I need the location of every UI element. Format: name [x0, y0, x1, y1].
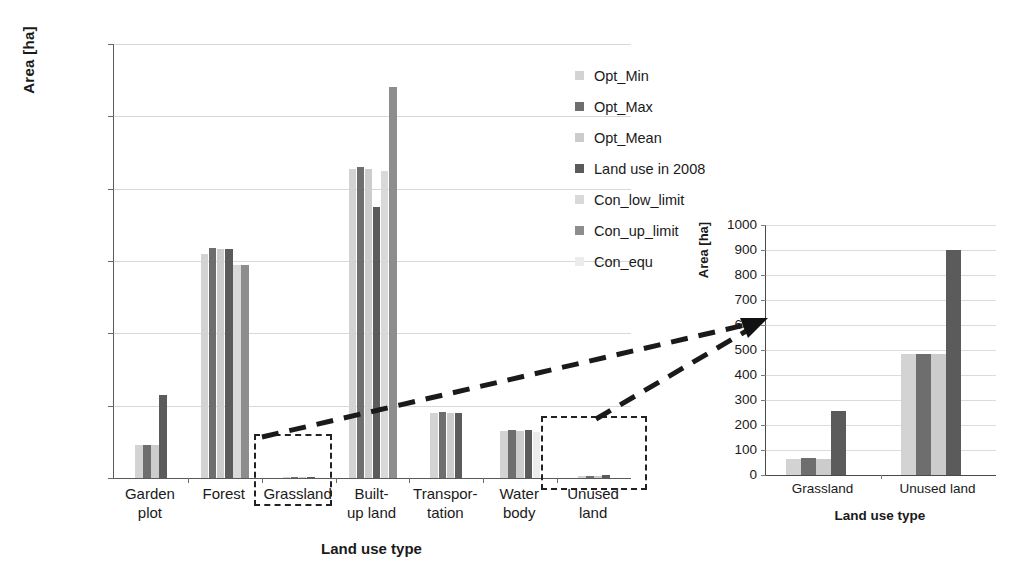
bar [455, 413, 463, 478]
bar [931, 354, 946, 475]
y-axis-tick-mark [108, 333, 114, 334]
y-axis-tick-mark [108, 116, 114, 117]
y-axis-tick-label: 500 [697, 344, 757, 356]
bar [447, 413, 455, 478]
bar [357, 167, 365, 478]
bar [365, 169, 373, 478]
x-axis-category-line: land [544, 503, 642, 522]
legend-item: Opt_Min [575, 60, 750, 91]
unused-land-callout-box [541, 416, 647, 490]
bar [525, 430, 533, 478]
y-axis-tick-mark [761, 250, 766, 251]
y-axis-tick-mark [761, 325, 766, 326]
y-axis-tick-mark [108, 478, 114, 479]
bar [159, 395, 167, 478]
x-axis-tick-mark [881, 475, 882, 479]
bar [373, 207, 381, 478]
legend-item-label: Land use in 2008 [594, 161, 705, 177]
y-axis-tick-label: 200 [697, 419, 757, 431]
y-axis-tick-label: 900 [697, 244, 757, 256]
legend-swatch-icon [575, 195, 584, 204]
legend-item-label: Opt_Min [594, 68, 649, 84]
legend-item-label: Opt_Max [594, 99, 653, 115]
bar [201, 254, 209, 478]
main-x-axis-title: Land use type [113, 540, 630, 557]
y-axis-tick-mark [761, 425, 766, 426]
bar [381, 171, 389, 478]
bar [217, 249, 225, 478]
bar [831, 411, 846, 476]
y-axis-tick-mark [108, 189, 114, 190]
legend-item-label: Con_equ [594, 254, 653, 270]
bar [349, 169, 357, 478]
legend-swatch-icon [575, 102, 584, 111]
legend-item-label: Opt_Mean [594, 130, 662, 146]
legend-item: Land use in 2008 [575, 153, 750, 184]
bar [135, 445, 143, 478]
bar-group [349, 44, 397, 478]
grassland-callout-box [254, 434, 332, 506]
y-axis-tick-mark [761, 225, 766, 226]
bar-group [500, 44, 540, 478]
bar-group [786, 225, 846, 475]
bar [533, 432, 541, 478]
y-axis-tick-label: 400 [697, 369, 757, 381]
x-axis-category-label: Unused land [870, 481, 1005, 496]
bar [801, 458, 816, 475]
bar [241, 265, 249, 478]
y-axis-tick-mark [761, 375, 766, 376]
y-axis-tick-label: 300 [697, 394, 757, 406]
y-axis-tick-mark [761, 450, 766, 451]
y-axis-tick-mark [761, 350, 766, 351]
legend-swatch-icon [575, 257, 584, 266]
bar-group [901, 225, 961, 475]
legend-item-label: Con_up_limit [594, 223, 679, 239]
y-axis-tick-label: 0 [697, 469, 757, 481]
legend-swatch-icon [575, 164, 584, 173]
bar [233, 265, 241, 478]
bar-group [135, 44, 167, 478]
y-axis-tick-label: 600 [697, 319, 757, 331]
y-axis-tick-label: 1000 [697, 219, 757, 231]
y-axis-tick-mark [108, 261, 114, 262]
inset-x-axis-title: Land use type [765, 508, 995, 523]
legend-item: Opt_Mean [575, 122, 750, 153]
legend-item-label: Con_low_limit [594, 192, 684, 208]
y-axis-tick-mark [108, 406, 114, 407]
legend-swatch-icon [575, 133, 584, 142]
bar [516, 431, 524, 478]
main-plot-area [113, 44, 631, 479]
bar-group [283, 44, 315, 478]
bar [816, 459, 831, 475]
y-axis-tick-label: 700 [697, 294, 757, 306]
bar [151, 445, 159, 478]
x-axis-tick-mark [336, 478, 337, 483]
x-axis-tick-mark [188, 478, 189, 483]
bar [209, 248, 217, 478]
bar [430, 413, 438, 478]
y-axis-tick-mark [761, 300, 766, 301]
x-axis-category-line: plot [101, 503, 199, 522]
bar [500, 431, 508, 478]
bar-group [201, 44, 249, 478]
y-axis-tick-label: 100 [697, 444, 757, 456]
bar [389, 87, 397, 478]
bar [143, 445, 151, 478]
legend-swatch-icon [575, 71, 584, 80]
bar [439, 412, 447, 478]
inset-bar-chart: Area [ha] 100090080070060050040030020010… [690, 200, 1025, 540]
y-axis-tick-label: 800 [697, 269, 757, 281]
bar [946, 250, 961, 475]
bar [508, 430, 516, 478]
bar-group [430, 44, 462, 478]
legend-item: Opt_Max [575, 91, 750, 122]
bar [916, 354, 931, 475]
y-axis-tick-mark [761, 400, 766, 401]
x-axis-tick-mark [483, 478, 484, 483]
y-axis-tick-mark [761, 475, 766, 476]
main-y-axis-title: Area [ha] [20, 0, 37, 150]
inset-plot-area [765, 225, 996, 476]
bar [901, 354, 916, 475]
x-axis-tick-mark [409, 478, 410, 483]
bar [786, 459, 801, 475]
